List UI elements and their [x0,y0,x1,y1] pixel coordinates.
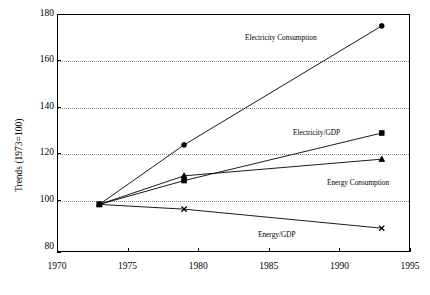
y-tick-label: 140 [24,102,54,112]
y-tick-mark [57,153,61,154]
y-tick-mark [57,14,61,15]
chart-container: Trends (1973=100) 180 160 140 120 100 80… [0,0,430,295]
y-tick-label: 100 [24,195,54,205]
y-tick-label: 120 [24,148,54,158]
series-label-electricity-gdp: Electricity/GDP [293,129,340,137]
x-tick-label: 1995 [390,262,430,272]
x-tick-label: 1990 [319,262,359,272]
y-tick-mark [57,60,61,61]
x-tick-label: 1975 [108,262,148,272]
figure-caption [0,288,430,295]
x-tick-mark [269,248,270,252]
x-tick-label: 1985 [249,262,289,272]
x-tick-mark [339,248,340,252]
y-tick-label: 80 [24,242,54,252]
series-label-energy-consumption: Energy Consumption [327,179,389,187]
y-tick-mark [57,107,61,108]
x-tick-mark [57,248,58,252]
series-label-electricity-consumption: Electricity Consumption [245,34,317,42]
y-tick-label: 160 [24,55,54,65]
series-label-energy-gdp: Energy/GDP [258,231,296,239]
x-tick-mark [198,248,199,252]
x-tick-mark [410,248,411,252]
y-tick-mark [57,200,61,201]
y-tick-label: 180 [24,9,54,19]
x-tick-mark [128,248,129,252]
x-tick-label: 1970 [37,262,77,272]
x-tick-label: 1980 [178,262,218,272]
y-axis: 180 160 140 120 100 80 1970 1975 1980 19… [0,0,430,295]
y-tick-mark [57,252,61,253]
